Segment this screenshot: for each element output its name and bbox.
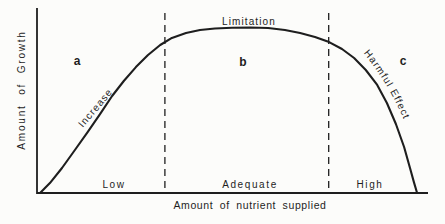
- x-axis-label: Amount of nutrient supplied: [173, 199, 326, 211]
- zone-letter-a: a: [74, 54, 81, 68]
- y-axis-label: Amount of Growth: [16, 30, 27, 149]
- range-label-high: High: [357, 179, 384, 190]
- zone-letter-c: c: [400, 54, 407, 68]
- zone-letter-b: b: [239, 55, 246, 69]
- range-label-adequate: Adequate: [222, 179, 278, 190]
- curve-label-increase: Increase: [76, 86, 115, 129]
- chart-svg: Amount of Growth Amount of nutrient supp…: [0, 0, 445, 224]
- growth-nutrient-figure: Amount of Growth Amount of nutrient supp…: [0, 0, 445, 224]
- range-label-low: Low: [102, 179, 125, 190]
- curve-label-limitation: Limitation: [222, 16, 276, 27]
